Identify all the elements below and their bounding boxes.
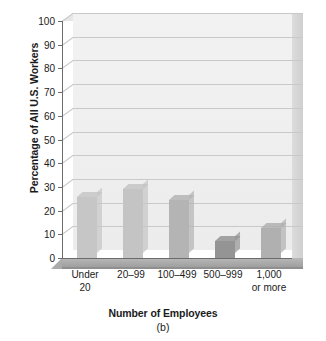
y-tick-label: 50 [44,134,55,145]
bar-side-face [97,188,102,253]
gridline-connector [62,84,74,93]
bar [123,189,143,258]
gridline-connector [62,37,74,46]
y-tick-label: 30 [44,181,55,192]
x-axis-line [62,258,292,259]
x-tick-label: 1,000 or more [240,268,298,294]
y-tick-mark [58,68,62,69]
y-axis-title: Percentage of All U.S. Workers [28,8,40,228]
panel-caption: (b) [0,321,326,333]
bar [215,241,235,258]
y-tick-mark [58,211,62,212]
gridline [73,37,303,38]
y-tick-label: 10 [44,229,55,240]
bar-side-face [143,180,148,253]
y-tick-mark [58,140,62,141]
y-tick-label: 90 [44,39,55,50]
x-axis-tick-labels: Under 2020–99100–499500–9991,000 or more [62,268,292,308]
y-tick-mark [58,45,62,46]
gridline-connector [62,132,74,141]
bar [169,200,189,258]
gridline-connector [62,179,74,188]
y-tick-label: 40 [44,158,55,169]
gridline-connector [62,60,74,69]
bar-front-face [77,197,97,258]
plot-top-cap [62,13,303,21]
bar [261,228,281,258]
bar-front-face [169,200,189,258]
gridline [73,84,303,85]
y-tick-label: 20 [44,205,55,216]
bar-front-face [261,228,281,258]
gridline-connector [62,108,74,117]
y-axis-line [62,21,63,259]
y-tick-label: 100 [38,16,55,27]
y-tick-mark [58,163,62,164]
y-tick-mark [58,234,62,235]
y-tick-mark [58,187,62,188]
y-tick-mark [58,258,62,259]
plot-right-panel [292,13,303,258]
gridline [73,108,303,109]
gridline [73,155,303,156]
bar-side-face [189,190,194,253]
y-tick-mark [58,92,62,93]
y-tick-label: 80 [44,63,55,74]
gridline [73,60,303,61]
gridline-connector [62,155,74,164]
gridline [73,132,303,133]
gridline [73,13,303,14]
gridline-connector [62,226,74,235]
x-axis-title: Number of Employees [0,307,326,319]
plot-floor-slab [62,258,303,267]
bar-front-face [123,189,143,258]
bar-chart-figure: Percentage of All U.S. Workers 010203040… [0,0,326,341]
bar [77,197,97,258]
y-tick-mark [58,21,62,22]
gridline [73,179,303,180]
gridline-connector [62,203,74,212]
bar-front-face [215,241,235,258]
y-tick-label: 0 [49,253,55,264]
y-tick-label: 60 [44,110,55,121]
y-tick-mark [58,116,62,117]
plot-area: 0102030405060708090100 [62,21,292,258]
y-tick-label: 70 [44,87,55,98]
